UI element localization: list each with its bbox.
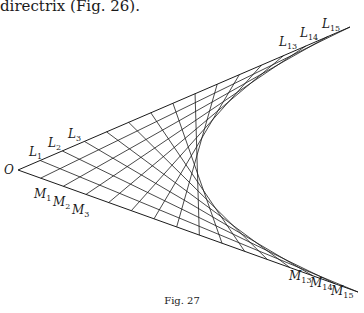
- envelope-line: [41, 27, 350, 178]
- point-label-M14: M14: [309, 276, 332, 292]
- envelope-line: [195, 94, 199, 235]
- point-label-L14: L14: [299, 26, 318, 42]
- point-label-L1: L1: [28, 145, 42, 161]
- envelope-line: [154, 75, 239, 219]
- point-label-M2: M2: [52, 195, 70, 211]
- point-label-L2: L2: [47, 136, 61, 152]
- point-label-L3: L3: [67, 127, 81, 143]
- point-label-M3: M3: [71, 203, 89, 219]
- point-label-M1: M1: [33, 187, 51, 203]
- axis-line-OL: [18, 27, 350, 170]
- parabola-envelope-figure: OL1L2L3L13L14L15M1M2M3M13M14M15: [0, 0, 364, 313]
- point-label-L15: L15: [321, 17, 340, 33]
- figure-caption: Fig. 27: [0, 295, 364, 306]
- envelope-line: [63, 37, 328, 187]
- vertex-label-O: O: [4, 163, 14, 177]
- envelope-line: [177, 84, 218, 227]
- envelope-line: [86, 46, 306, 194]
- point-label-L13: L13: [278, 35, 297, 51]
